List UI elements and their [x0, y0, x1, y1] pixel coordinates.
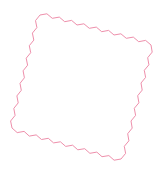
zigzag-quadrilateral-shape [11, 14, 153, 160]
canvas [0, 0, 168, 179]
